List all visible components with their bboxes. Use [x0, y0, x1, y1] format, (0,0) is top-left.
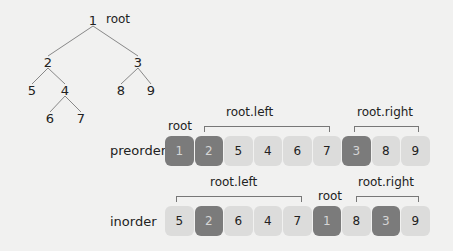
preorder-root-label: root: [168, 120, 192, 132]
inorder-cell: 5: [165, 206, 194, 236]
inorder-cell: 3: [372, 206, 401, 236]
tree-node: 6: [46, 112, 54, 125]
inorder-left-bracket: [176, 196, 302, 202]
preorder-cell: 7: [313, 136, 342, 166]
tree-edges: [0, 0, 200, 130]
tree-node: 5: [28, 84, 36, 97]
inorder-cell: 1: [313, 206, 342, 236]
inorder-cell: 7: [283, 206, 312, 236]
inorder-array: 526471839: [165, 206, 430, 236]
preorder-right-bracket: [354, 126, 419, 132]
tree-root-label: root: [106, 13, 130, 25]
preorder-cell: 2: [195, 136, 224, 166]
preorder-cell: 3: [342, 136, 371, 166]
preorder-right-label: root.right: [357, 106, 413, 118]
preorder-cell: 9: [401, 136, 430, 166]
preorder-cell: 1: [165, 136, 194, 166]
tree-node: 7: [77, 112, 85, 125]
preorder-cell: 6: [283, 136, 312, 166]
tree-node: 2: [44, 56, 52, 69]
inorder-cell: 8: [342, 206, 371, 236]
preorder-left-label: root.left: [226, 106, 273, 118]
preorder-array: 125467389: [165, 136, 430, 166]
preorder-label: preorder: [110, 144, 166, 157]
tree-node: 9: [147, 84, 155, 97]
preorder-cell: 8: [372, 136, 401, 166]
inorder-left-label: root.left: [210, 176, 257, 188]
inorder-cell: 4: [254, 206, 283, 236]
inorder-cell: 6: [224, 206, 253, 236]
tree-node: 3: [134, 56, 142, 69]
inorder-cell: 2: [195, 206, 224, 236]
inorder-right-label: root.right: [358, 176, 414, 188]
preorder-left-bracket: [204, 126, 330, 132]
inorder-label: inorder: [110, 215, 157, 228]
inorder-cell: 9: [401, 206, 430, 236]
inorder-right-bracket: [356, 196, 419, 202]
tree-node: 1: [89, 14, 97, 27]
preorder-cell: 5: [224, 136, 253, 166]
tree-node: 8: [117, 84, 125, 97]
tree-node: 4: [61, 84, 69, 97]
inorder-root-label: root: [318, 190, 342, 202]
preorder-cell: 4: [254, 136, 283, 166]
